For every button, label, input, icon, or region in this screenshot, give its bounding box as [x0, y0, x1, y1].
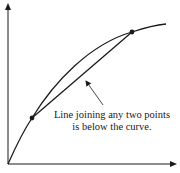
x-axis-arrow-icon — [170, 161, 177, 167]
upper-point — [130, 30, 135, 35]
concave-curve — [8, 24, 166, 164]
caption-line-2: is below the curve. — [72, 121, 151, 132]
annotation-arrow — [86, 81, 103, 105]
lower-point — [30, 116, 35, 121]
concavity-diagram: Line joining any two points is below the… — [0, 0, 180, 173]
y-axis-arrow-icon — [5, 3, 11, 10]
chord-line — [32, 32, 132, 118]
caption-line-1: Line joining any two points — [54, 109, 170, 120]
